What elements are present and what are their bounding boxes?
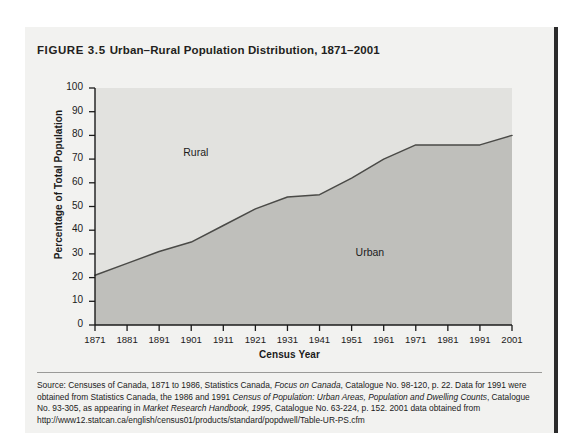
chart-svg: [25, 27, 554, 387]
chart-plot-area: Percentage of Total Population Census Ye…: [25, 27, 554, 387]
y-tick-label: 20: [57, 271, 83, 282]
y-tick-label: 0: [57, 318, 83, 329]
y-tick-label: 70: [57, 152, 83, 163]
figure-card: FIGURE 3.5Urban–Rural Population Distrib…: [25, 27, 554, 433]
urban-area-label: Urban: [356, 246, 385, 258]
y-tick-label: 100: [57, 81, 83, 92]
y-tick-label: 10: [57, 294, 83, 305]
y-tick-label: 80: [57, 128, 83, 139]
source-divider: [37, 372, 542, 373]
y-tick-label: 40: [57, 223, 83, 234]
y-tick-label: 50: [57, 200, 83, 211]
y-tick-label: 90: [57, 105, 83, 116]
y-tick-label: 60: [57, 176, 83, 187]
source-note: Source: Censuses of Canada, 1871 to 1986…: [37, 380, 545, 426]
x-tick-label: 2001: [492, 334, 532, 345]
rural-area-label: Rural: [183, 146, 208, 158]
y-tick-label: 30: [57, 247, 83, 258]
